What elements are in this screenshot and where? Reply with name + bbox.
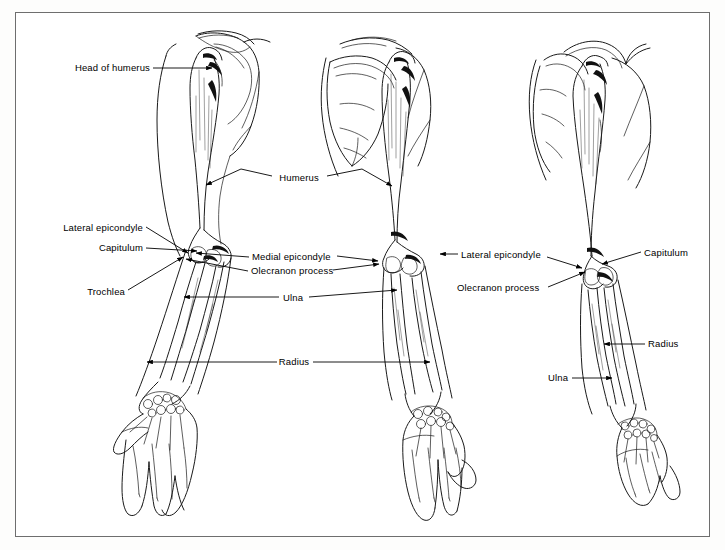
label-ulna-right: Ulna	[548, 372, 568, 383]
label-medial-epicondyle-center: Medial epicondyle	[252, 251, 331, 262]
label-lateral-epicondyle-right: Lateral epicondyle	[461, 249, 541, 260]
label-lateral-epicondyle-left: Lateral epicondyle	[63, 222, 143, 233]
anatomy-plate: .o { fill:none; stroke:#1a1a1a; stroke-w…	[0, 0, 725, 550]
label-humerus-center: Humerus	[279, 172, 319, 183]
plate-frame	[15, 12, 710, 537]
label-head-of-humerus: Head of humerus	[75, 62, 150, 73]
label-ulna-center: Ulna	[283, 292, 303, 303]
label-radius-center: Radius	[279, 356, 309, 367]
label-olecranon-process-center: Olecranon process	[251, 265, 333, 276]
label-radius-right: Radius	[648, 338, 678, 349]
label-olecranon-process-right: Olecranon process	[457, 282, 539, 293]
label-capitulum-left: Capitulum	[99, 242, 143, 253]
label-capitulum-right: Capitulum	[644, 247, 688, 258]
label-trochlea-left: Trochlea	[87, 286, 125, 297]
